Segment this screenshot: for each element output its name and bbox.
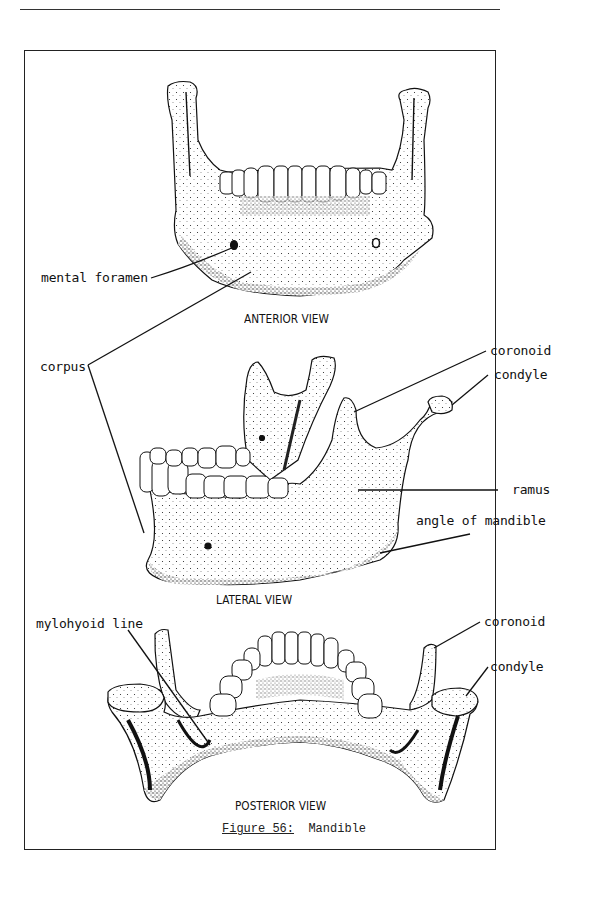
- label-condyle-posterior: condyle: [490, 659, 543, 674]
- leader-condyle-posterior: [466, 667, 488, 696]
- posterior-view-title: POSTERIOR VIEW: [235, 798, 326, 813]
- label-corpus: corpus: [40, 359, 86, 374]
- label-mylohyoid-line: mylohyoid line: [36, 616, 143, 631]
- lateral-view-title: LATERAL VIEW: [216, 592, 292, 607]
- figure-title: Mandible: [308, 822, 366, 836]
- label-condyle-lateral: condyle: [494, 367, 547, 382]
- label-mental-foramen: mental foramen: [41, 270, 148, 285]
- anterior-view-title: ANTERIOR VIEW: [244, 311, 329, 326]
- lateral-view-mandible: [140, 356, 452, 584]
- label-coronoid-lateral: coronoid: [490, 343, 551, 358]
- figure-number: Figure 56:: [222, 822, 294, 836]
- figure-caption: Figure 56: Mandible: [222, 822, 366, 836]
- mandible-illustrations: [0, 0, 598, 906]
- leader-corpus-lateral: [88, 365, 144, 533]
- label-angle-of-mandible: angle of mandible: [416, 513, 546, 528]
- label-ramus: ramus: [512, 482, 550, 497]
- posterior-view-mandible: [108, 630, 478, 803]
- leader-condyle-lateral: [452, 375, 488, 405]
- anterior-view-mandible: [168, 82, 434, 297]
- label-coronoid-posterior: coronoid: [484, 614, 545, 629]
- leader-corpus-anterior: [88, 272, 251, 365]
- leader-coronoid-posterior: [434, 622, 480, 648]
- leader-coronoid-lateral: [354, 351, 486, 412]
